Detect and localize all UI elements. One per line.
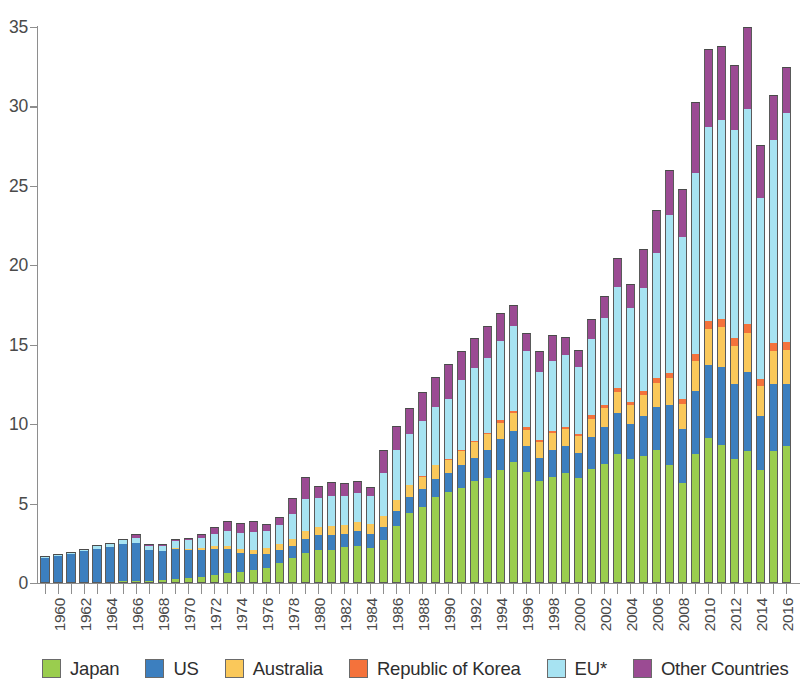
bar	[118, 27, 127, 583]
bar-segment	[574, 478, 583, 583]
x-axis-tick	[292, 584, 293, 594]
bar	[249, 27, 258, 583]
bar-segment	[66, 554, 75, 583]
x-axis-tick	[175, 584, 176, 594]
bar-segment	[470, 458, 479, 482]
x-axis-tick-label: 2006	[649, 598, 667, 631]
y-axis-tick	[30, 424, 38, 425]
bar-segment	[405, 513, 414, 583]
bar-segment	[535, 481, 544, 583]
bar-segment	[366, 534, 375, 548]
bar-segment	[392, 511, 401, 526]
x-axis-tick	[695, 584, 696, 594]
y-axis-tick	[30, 27, 38, 28]
bar-segment	[431, 407, 440, 464]
bar-segment	[379, 473, 388, 516]
x-axis-tick	[461, 584, 462, 594]
bar-segment	[782, 446, 791, 583]
bar-segment	[418, 421, 427, 476]
x-axis-tick	[279, 584, 280, 594]
bar-segment	[535, 351, 544, 372]
legend-item[interactable]: EU*	[547, 658, 607, 680]
bar	[548, 27, 557, 583]
bar-segment	[470, 368, 479, 441]
bar-segment	[249, 532, 258, 549]
bar-segment	[769, 384, 778, 451]
bar-segment	[340, 496, 349, 525]
bar	[743, 27, 752, 583]
x-axis-tick	[604, 584, 605, 594]
bar-segment	[118, 544, 127, 581]
bar	[626, 27, 635, 583]
bar-segment	[574, 453, 583, 478]
bar-segment	[262, 531, 271, 548]
x-axis-tick-label: 1988	[415, 598, 433, 631]
bar-segment	[730, 338, 739, 346]
bar-segment	[730, 130, 739, 338]
bar-segment	[392, 426, 401, 451]
bar-segment	[600, 296, 609, 318]
bar-segment	[522, 430, 531, 447]
legend-item[interactable]: Australia	[225, 658, 323, 680]
bar	[236, 27, 245, 583]
bar	[756, 27, 765, 583]
x-axis-tick-label: 2002	[597, 598, 615, 631]
bar-segment	[600, 427, 609, 464]
legend-color-swatch-icon	[145, 659, 164, 678]
bar-segment	[782, 342, 791, 350]
bar-segment	[327, 526, 336, 535]
bar	[639, 27, 648, 583]
bar-segment	[418, 507, 427, 583]
bar-segment	[704, 321, 713, 329]
x-axis-tick	[786, 584, 787, 594]
bar-segment	[782, 350, 791, 385]
x-axis-tick-label: 1992	[467, 598, 485, 631]
bar-segment	[405, 485, 414, 497]
bar-segment	[587, 419, 596, 437]
bar-segment	[483, 358, 492, 433]
bar-segment	[184, 540, 193, 549]
bar-segment	[652, 210, 661, 253]
bar-segment	[353, 481, 362, 493]
bar-segment	[353, 493, 362, 522]
bar-segment	[600, 464, 609, 583]
bar-segment	[249, 521, 258, 532]
bar-segment	[262, 554, 271, 568]
bar	[210, 27, 219, 583]
bar-segment	[431, 377, 440, 407]
legend-item[interactable]: Other Countries	[633, 658, 789, 680]
bar-segment	[782, 67, 791, 113]
bar-segment	[509, 431, 518, 463]
x-axis-tick	[383, 584, 384, 594]
x-axis-tick	[656, 584, 657, 594]
chart-legend: JapanUSAustraliaRepublic of KoreaEU*Othe…	[0, 652, 800, 685]
bar	[691, 27, 700, 583]
bar-segment	[392, 500, 401, 511]
bar-segment	[678, 237, 687, 399]
legend-item-label: US	[173, 658, 198, 680]
bar-segment	[379, 527, 388, 541]
bar-segment	[405, 434, 414, 485]
bar-segment	[353, 531, 362, 546]
bar-segment	[548, 477, 557, 583]
bar-segment	[457, 465, 466, 487]
y-axis-tick-label: 15	[0, 335, 28, 356]
legend-item[interactable]: US	[145, 658, 198, 680]
legend-item[interactable]: Republic of Korea	[349, 658, 521, 680]
legend-item[interactable]: Japan	[42, 658, 119, 680]
bar-segment	[314, 486, 323, 498]
x-axis-tick	[201, 584, 202, 594]
y-axis-tick	[30, 106, 38, 107]
x-axis-tick	[357, 584, 358, 594]
bar	[418, 27, 427, 583]
bar-segment	[236, 572, 245, 583]
bar-segment	[444, 364, 453, 399]
bar-segment	[184, 550, 193, 579]
x-axis-tick-label: 2014	[753, 598, 771, 631]
bar-segment	[496, 470, 505, 583]
x-axis-tick-label: 1964	[103, 598, 121, 631]
x-axis-tick	[97, 584, 98, 594]
y-axis-tick	[30, 186, 38, 187]
bar-segment	[639, 456, 648, 583]
bar-segment	[691, 391, 700, 455]
